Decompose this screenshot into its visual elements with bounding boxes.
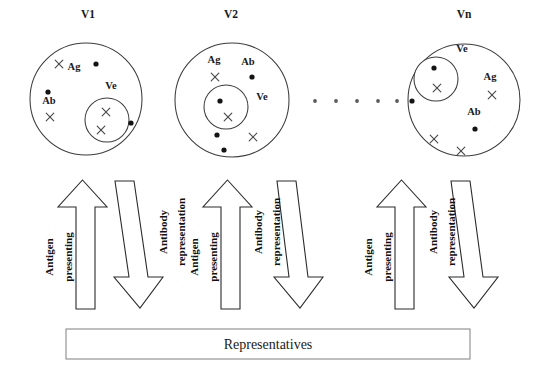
virus-groups-layer: V1VeAgAbV2VeAgAbVnVeAgAb [30, 8, 520, 157]
ellipsis-dot [395, 99, 399, 103]
representatives-label: Representatives [224, 337, 313, 352]
antibody-dot-marker [221, 147, 226, 152]
arrow-pairs-layer: AntigenpresentingAntibodyrepresentationA… [43, 180, 498, 309]
label-ag-vn: Ag [484, 71, 498, 82]
antigen-presenting-label-line1: Antigen [43, 238, 55, 275]
group-title-v2: V2 [224, 8, 238, 20]
label-ab-v1: Ab [42, 95, 56, 106]
antibody-dot-marker [93, 61, 98, 66]
antibody-dot-marker [249, 74, 254, 79]
antigen-presenting-label-line1: Antigen [188, 238, 200, 275]
label-ab-vn: Ab [467, 106, 481, 117]
diagram-canvas: V1VeAgAbV2VeAgAbVnVeAgAb Antigenpresenti… [0, 0, 536, 375]
antibody-dot-marker [45, 89, 50, 94]
immune-network-diagram: V1VeAgAbV2VeAgAbVnVeAgAb Antigenpresenti… [0, 0, 536, 375]
label-ag-v2: Ag [208, 54, 222, 65]
ellipsis-dot [376, 99, 380, 103]
antibody-dot-marker [431, 65, 436, 70]
antigen-presenting-label-line2: presenting [62, 232, 74, 282]
inner-circle-ve-v1 [85, 98, 129, 142]
representatives-box-layer: Representatives [66, 329, 470, 359]
inner-circle-ve-vn [414, 57, 458, 101]
antibody-representation-label-line2: representation [175, 198, 187, 266]
group-title-v1: V1 [81, 8, 95, 20]
antibody-representation-label-line2: representation [270, 198, 282, 266]
antibody-dot-marker [128, 120, 133, 125]
antibody-dot-marker [472, 126, 477, 131]
antibody-representation-arrow-down [114, 181, 163, 308]
label-ve-v1: Ve [105, 80, 117, 91]
label-ab-v2: Ab [241, 56, 255, 67]
arrow-pair-pair-1: AntigenpresentingAntibodyrepresentation [43, 180, 187, 309]
antibody-dot-marker [214, 132, 219, 137]
antibody-dot-marker [217, 98, 222, 103]
antibody-representation-label-line1: Antibody [157, 209, 169, 254]
ellipsis-dot [334, 99, 338, 103]
antibody-representation-label-line2: representation [445, 198, 457, 266]
virus-group-v1: V1VeAgAb [30, 8, 142, 155]
antigen-presenting-label-line2: presenting [207, 232, 219, 282]
label-ag-v1: Ag [68, 61, 82, 72]
antibody-dot-marker [409, 98, 414, 103]
antigen-presenting-label-line2: presenting [381, 232, 393, 282]
label-ve-vn: Ve [456, 43, 468, 54]
inner-circle-ve-v2 [204, 85, 248, 129]
virus-group-vn: VnVeAgAb [408, 8, 520, 156]
arrow-pair-pair-2: AntigenpresentingAntibodyrepresentation [188, 180, 323, 309]
ellipsis-dot [313, 99, 317, 103]
ellipsis-dot [355, 99, 359, 103]
arrow-pair-pair-3: AntigenpresentingAntibodyrepresentation [362, 180, 498, 309]
antibody-representation-label-line1: Antibody [252, 209, 264, 254]
label-ve-v2: Ve [256, 91, 268, 102]
antibody-representation-label-line1: Antibody [427, 209, 439, 254]
ellipsis-separator [313, 99, 399, 103]
group-title-vn: Vn [457, 8, 472, 20]
virus-group-v2: V2VeAgAb [175, 8, 289, 157]
antigen-presenting-label-line1: Antigen [362, 238, 374, 275]
